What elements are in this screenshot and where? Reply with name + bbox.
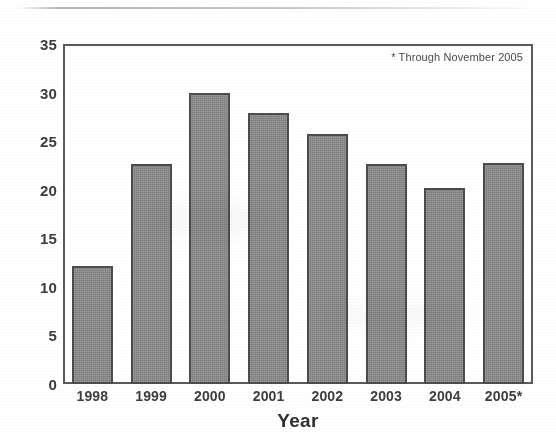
x-axis-title: Year xyxy=(63,410,533,432)
x-tick-label-1999: 1999 xyxy=(135,388,167,404)
bar-2001 xyxy=(248,113,289,384)
x-tick-label-2001: 2001 xyxy=(253,388,285,404)
x-tick-label-2003: 2003 xyxy=(370,388,402,404)
bar-2005 xyxy=(483,163,524,384)
bar-2004 xyxy=(424,188,465,384)
y-tick-label: 10 xyxy=(0,278,57,295)
y-axis: 35 30 25 20 15 10 5 0 xyxy=(0,44,57,384)
bar-2002 xyxy=(307,134,348,384)
x-tick-label-2000: 2000 xyxy=(194,388,226,404)
y-tick-label: 5 xyxy=(0,327,57,344)
bar-2003 xyxy=(366,164,407,384)
x-tick-label-2002: 2002 xyxy=(311,388,343,404)
y-tick-label: 30 xyxy=(0,84,57,101)
x-tick-label-2004: 2004 xyxy=(429,388,461,404)
x-tick-label-2005: 2005* xyxy=(485,388,523,404)
y-tick-label: 0 xyxy=(0,376,57,393)
y-tick-label: 25 xyxy=(0,133,57,150)
y-tick-label: 35 xyxy=(0,36,57,53)
bar-1998 xyxy=(72,266,113,385)
bar-chart-figure: 35 30 25 20 15 10 5 0 * Through November… xyxy=(0,0,556,444)
y-tick-label: 20 xyxy=(0,181,57,198)
bar-1999 xyxy=(131,164,172,385)
y-tick-label: 15 xyxy=(0,230,57,247)
bar-2000 xyxy=(189,93,230,384)
bars-container xyxy=(63,44,533,384)
scan-artifact-line xyxy=(18,7,538,9)
x-tick-label-1998: 1998 xyxy=(76,388,108,404)
